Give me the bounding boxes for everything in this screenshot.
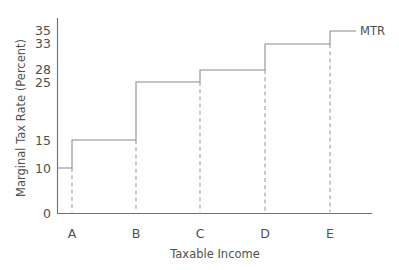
y-axis-title: Marginal Tax Rate (Percent)	[14, 39, 28, 197]
y-tick-label-33: 33	[35, 36, 51, 51]
mtr-step-line	[58, 31, 353, 168]
x-tick-label-e: E	[326, 226, 334, 241]
y-tick-label-15: 15	[35, 133, 51, 148]
y-tick-label-10: 10	[35, 161, 51, 176]
x-tick-label-d: D	[260, 226, 270, 241]
chart-canvas: 35 33 28 25 15 10 0 A B C D E Taxable In…	[0, 0, 399, 270]
chart-figure: 35 33 28 25 15 10 0 A B C D E Taxable In…	[0, 0, 399, 270]
x-tick-label-c: C	[196, 226, 205, 241]
x-axis-title: Taxable Income	[169, 247, 260, 261]
x-tick-label-b: B	[132, 226, 141, 241]
x-tick-label-a: A	[68, 226, 77, 241]
y-tick-label-25: 25	[35, 75, 51, 90]
series-label-mtr: MTR	[360, 24, 385, 38]
y-tick-label-0: 0	[43, 206, 51, 221]
